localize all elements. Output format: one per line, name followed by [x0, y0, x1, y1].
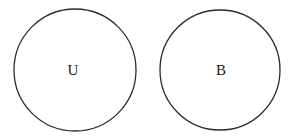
set-u-label: U	[68, 62, 79, 78]
set-b-label: B	[216, 62, 226, 78]
set-u: U	[14, 9, 136, 131]
set-b: B	[160, 10, 280, 130]
venn-diagram: U B	[0, 0, 291, 139]
